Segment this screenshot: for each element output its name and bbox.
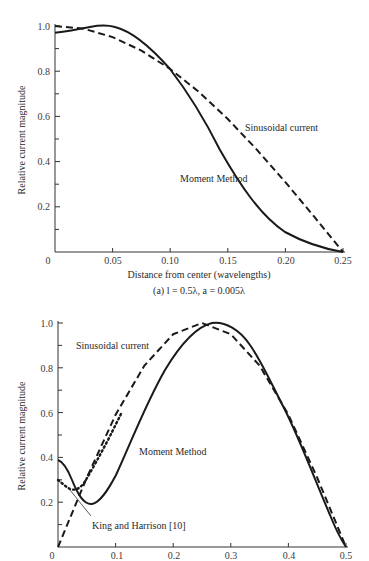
x-tick-labels-b: 0 0.1 0.2 0.3 0.4 0.5: [50, 550, 353, 561]
y-tick-label: 0.4: [41, 452, 54, 463]
y-tick-label: 0.6: [41, 408, 54, 419]
chart-panel-b: 1.0 0.8 0.6 0.4 0.2 0 0.1 0.2 0.3 0.4 0.…: [16, 318, 352, 561]
x-tick-label: 0.25: [334, 255, 352, 266]
y-tick-label: 1.0: [41, 318, 54, 329]
y-ticks-a: [55, 26, 60, 229]
x-tick-label: 0.5: [340, 550, 353, 561]
y-tick-labels-a: 1.0 0.8 0.6 0.4 0.2: [38, 21, 51, 212]
y-tick-label: 0.8: [38, 66, 51, 77]
y-tick-label: 0.2: [41, 497, 54, 508]
y-tick-label: 0.8: [41, 363, 54, 374]
y-tick-label: 1.0: [38, 21, 51, 32]
x-tick-label: 0.2: [168, 550, 181, 561]
label-moment-a: Moment Method: [180, 173, 248, 184]
panel-a-caption: (a) l = 0.5λ, a = 0.005λ: [153, 285, 245, 297]
x-tick-labels-a: 0 0.05 0.10 0.15 0.20 0.25: [46, 255, 352, 266]
x-tick-label: 0.10: [161, 255, 179, 266]
y-tick-label: 0.6: [38, 111, 51, 122]
x-ticks-b: [116, 543, 346, 547]
series-moment-a: [55, 26, 343, 253]
x-tick-label: 0: [46, 255, 51, 266]
y-ticks-b: [58, 323, 63, 525]
x-tick-label: 0.05: [104, 255, 122, 266]
y-tick-label: 0.2: [38, 201, 51, 212]
series-moment-b: [58, 323, 346, 547]
label-moment-b: Moment Method: [139, 446, 207, 457]
chart-panel-a: 1.0 0.8 0.6 0.4 0.2 0 0.05 0.10 0.15 0.2…: [16, 21, 352, 297]
x-ticks-a: [113, 248, 343, 252]
x-tick-label: 0.1: [111, 550, 124, 561]
series-sinusoidal-a: [55, 26, 343, 252]
figure: 1.0 0.8 0.6 0.4 0.2 0 0.05 0.10 0.15 0.2…: [0, 0, 369, 561]
y-axis-title-a: Relative current magnitude: [16, 85, 27, 194]
x-axis-title-a: Distance from center (wavelengths): [128, 269, 271, 281]
x-tick-label: 0.3: [225, 550, 238, 561]
series-sinusoidal-b: [58, 323, 346, 547]
label-sinusoidal-b: Sinusoidal current: [76, 340, 149, 351]
y-tick-label: 0.4: [38, 156, 51, 167]
y-tick-labels-b: 1.0 0.8 0.6 0.4 0.2: [41, 318, 54, 508]
x-tick-label: 0: [50, 550, 55, 561]
y-axis-title-b: Relative current magnitude: [16, 381, 27, 490]
x-tick-label: 0.20: [277, 255, 295, 266]
label-sinusoidal-a: Sinusoidal current: [245, 122, 318, 133]
x-tick-label: 0.4: [283, 550, 296, 561]
label-king-harrison-b: King and Harrison [10]: [92, 520, 186, 531]
x-tick-label: 0.15: [219, 255, 237, 266]
